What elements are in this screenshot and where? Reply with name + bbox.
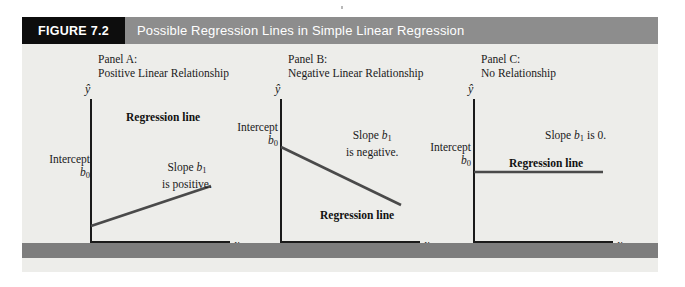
panel-c-slope-prefix: Slope bbox=[545, 129, 574, 141]
panel-b-intercept-label: Intercept b0 bbox=[218, 121, 278, 150]
panel-c-y-axis-label: ŷ bbox=[468, 82, 473, 97]
panel-b-slope-subscript: 1 bbox=[387, 133, 391, 143]
panel-a-regression-line-label: Regression line bbox=[126, 111, 200, 123]
panel-a-title: Panel A: Positive Linear Relationship bbox=[98, 53, 229, 80]
panel-c-slope-label: Slope b1 is 0. bbox=[545, 129, 606, 146]
figure-title: Possible Regression Lines in Simple Line… bbox=[137, 17, 464, 44]
panel-a-intercept-label: Intercept b0 bbox=[28, 153, 90, 182]
panel-a-y-axis-label: ŷ bbox=[85, 82, 90, 97]
panel-b-title: Panel B: Negative Linear Relationship bbox=[288, 53, 423, 80]
panel-a-regression-line bbox=[91, 186, 211, 226]
panel-c-slope-desc: is 0. bbox=[584, 129, 606, 141]
panel-a-slope-desc: is positive. bbox=[162, 178, 212, 190]
figure-header: FIGURE 7.2 Possible Regression Lines in … bbox=[22, 17, 658, 44]
panel-c-intercept-text: Intercept bbox=[430, 141, 471, 153]
panel-a-intercept-symbol: b0 bbox=[28, 166, 90, 182]
panel-c-regression-line-svg bbox=[473, 99, 613, 243]
panel-b-regression-line-svg bbox=[280, 99, 420, 243]
panel-a-slope-prefix: Slope bbox=[167, 161, 196, 173]
panel-c: Panel C: No Relationship ŷ x Intercept b… bbox=[457, 53, 669, 248]
panel-b-regression-line-label: Regression line bbox=[320, 209, 394, 221]
panel-a-title-line1: Panel A: bbox=[98, 53, 137, 65]
figure-number-badge: FIGURE 7.2 bbox=[22, 17, 125, 44]
panel-b-slope-prefix: Slope bbox=[353, 129, 382, 141]
panel-c-title: Panel C: No Relationship bbox=[481, 53, 556, 80]
panel-a-title-line2: Positive Linear Relationship bbox=[98, 67, 229, 79]
panel-b-y-axis-label: ŷ bbox=[275, 82, 280, 97]
scan-artifact bbox=[341, 6, 343, 9]
figure-container: FIGURE 7.2 Possible Regression Lines in … bbox=[22, 17, 658, 272]
panel-a-intercept-text: Intercept bbox=[49, 153, 90, 165]
panel-b-title-line1: Panel B: bbox=[288, 53, 327, 65]
panel-c-intercept-label: Intercept b0 bbox=[411, 141, 471, 170]
panel-b-intercept-symbol: b0 bbox=[218, 134, 278, 150]
panel-c-regression-line-label: Regression line bbox=[509, 157, 583, 169]
panel-c-title-line1: Panel C: bbox=[481, 53, 520, 65]
panel-b-slope-label: Slope b1 is negative. bbox=[346, 129, 398, 159]
panel-a-slope-subscript: 1 bbox=[202, 165, 206, 175]
panel-a: Panel A: Positive Linear Relationship ŷ … bbox=[74, 53, 286, 248]
panel-b-title-line2: Negative Linear Relationship bbox=[288, 67, 423, 79]
panel-a-slope-label: Slope b1 is positive. bbox=[162, 161, 212, 191]
panel-b-intercept-text: Intercept bbox=[237, 121, 278, 133]
panel-b-slope-desc: is negative. bbox=[346, 146, 398, 158]
figure-footer-bar bbox=[22, 243, 658, 258]
panel-c-plot: ŷ x Intercept b0 Regression line Slope b… bbox=[473, 99, 613, 243]
panel-b-plot: ŷ x Intercept b0 Regression line Slope b… bbox=[280, 99, 420, 243]
panel-c-title-line2: No Relationship bbox=[481, 67, 556, 79]
panel-c-intercept-symbol: b0 bbox=[411, 154, 471, 170]
panel-a-plot: ŷ x Intercept b0 Regression line Slope b… bbox=[90, 99, 230, 243]
